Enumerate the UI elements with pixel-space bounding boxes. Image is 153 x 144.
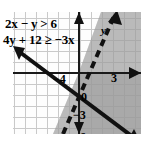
inequality-second: 4y + 12 ≥ −3x [3,33,74,46]
y-tick-label-neg3: −3 [73,109,86,121]
y-axis-arrow [74,12,84,24]
origin-label: 0 [81,91,87,103]
y-tick-label-neg6: −6 [73,131,86,134]
x-tick-label-neg4: −4 [53,73,66,85]
x-tick-label-3: 3 [111,72,117,84]
y-axis-label: y [101,25,106,36]
x-axis-arrow [129,67,141,79]
inequality-graph-figure: −4 0 3 −3 −6 y x 2x − y > 6 4y + 12 ≥ −3… [0,0,153,144]
inequality-first: 2x − y > 6 [5,17,57,30]
